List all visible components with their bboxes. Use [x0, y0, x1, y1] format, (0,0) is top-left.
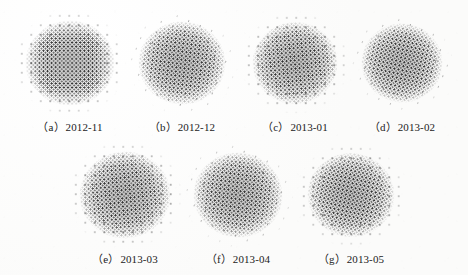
cluster-b — [130, 8, 234, 134]
panel-caption-label: 2013-05 — [347, 253, 384, 265]
cluster-outliers — [241, 12, 349, 114]
cluster-g — [299, 140, 403, 266]
panel-caption-tag: （f） — [206, 253, 232, 265]
cluster-a — [18, 8, 122, 134]
panel-caption-tag: （e） — [92, 253, 119, 265]
panel-caption: （a）2012-11 — [18, 118, 122, 134]
cluster-outliers — [296, 143, 406, 247]
panel-caption-tag: （c） — [262, 121, 289, 133]
panel-caption-label: 2013-04 — [233, 253, 270, 265]
cluster-f — [186, 140, 290, 266]
panel-caption-label: 2012-12 — [178, 121, 215, 133]
panel-caption-label: 2013-01 — [290, 121, 327, 133]
panel-d: （d）2013-02 — [350, 8, 454, 134]
panel-b: （b）2012-12 — [130, 8, 234, 134]
panel-caption: （f）2013-04 — [186, 250, 290, 266]
panel-caption: （d）2013-02 — [350, 118, 454, 134]
panel-g: （g）2013-05 — [299, 140, 403, 266]
cluster-d — [350, 8, 454, 134]
figure-root: （a）2012-11 （b）2012-12 （c）2013-01 （d）20 — [0, 0, 468, 275]
cluster-outliers — [14, 10, 126, 116]
panel-f: （f）2013-04 — [186, 140, 290, 266]
cluster-e — [73, 140, 177, 266]
panel-caption-label: 2013-03 — [120, 253, 157, 265]
panel-c: （c）2013-01 — [243, 8, 347, 134]
panel-caption: （b）2012-12 — [130, 118, 234, 134]
panel-caption: （e）2013-03 — [73, 250, 177, 266]
panel-caption-tag: （a） — [37, 121, 64, 133]
panel-caption: （c）2013-01 — [243, 118, 347, 134]
panel-caption-tag: （d） — [369, 121, 397, 133]
panel-caption-label: 2012-11 — [66, 121, 103, 133]
panel-caption-tag: （b） — [149, 121, 177, 133]
cluster-outliers — [68, 141, 182, 249]
panel-a: （a）2012-11 — [18, 8, 122, 134]
cluster-outliers — [111, 0, 253, 132]
panel-caption-label: 2013-02 — [398, 121, 435, 133]
panel-caption-tag: （g） — [318, 253, 346, 265]
panel-e: （e）2013-03 — [73, 140, 177, 266]
cluster-outliers — [166, 124, 311, 265]
cluster-outliers — [335, 0, 468, 128]
panel-caption: （g）2013-05 — [299, 250, 403, 266]
cluster-c — [243, 8, 347, 134]
